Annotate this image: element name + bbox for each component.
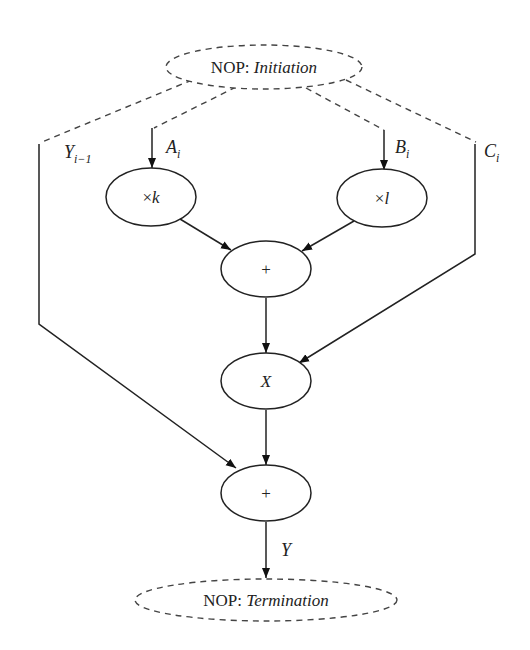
edge-label-c: Ci [484, 141, 499, 165]
node-add-1: + [221, 241, 311, 297]
edge-init-b-dashed [306, 88, 384, 130]
edge-label-a: Ai [165, 137, 180, 161]
node-initiation-prefix: NOP: [211, 58, 254, 77]
node-termination-label: Termination [246, 591, 329, 610]
edge-init-a-dashed [154, 87, 236, 128]
dataflow-diagram: NOP: Initiation ×k ×l + X + NOP: Termina… [0, 0, 530, 650]
edge-mull-to-add1 [302, 221, 354, 251]
node-multiply-l: ×l [337, 169, 427, 227]
node-add-2-label: + [261, 484, 271, 503]
node-multiply-k-label: k [152, 188, 160, 207]
node-multiply-l-label: l [384, 189, 389, 208]
edge-label-y-prev: Yi−1 [64, 142, 91, 166]
node-x-label: X [260, 372, 272, 391]
node-initiation-label: Initiation [253, 58, 317, 77]
node-termination: NOP: Termination [135, 579, 397, 621]
edge-mulk-to-add1 [180, 219, 231, 250]
node-x: X [221, 353, 311, 409]
edge-label-b: Bi [395, 137, 409, 161]
node-add-2: + [221, 465, 311, 521]
svg-text:NOP: Initiation: NOP: Initiation [211, 58, 317, 77]
node-initiation: NOP: Initiation [166, 45, 362, 89]
node-multiply-k: ×k [106, 168, 196, 226]
node-termination-prefix: NOP: [203, 591, 246, 610]
edge-init-yprev-dashed [42, 80, 192, 142]
node-multiply-l-prefix: × [375, 189, 385, 208]
node-add-1-label: + [261, 260, 271, 279]
svg-text:×l: ×l [375, 189, 390, 208]
node-multiply-k-prefix: × [142, 188, 152, 207]
dashed-edges [42, 80, 476, 142]
svg-text:NOP: Termination: NOP: Termination [203, 591, 329, 610]
edge-label-y: Y [281, 540, 293, 560]
edge-init-c-dashed [346, 80, 476, 142]
svg-text:×k: ×k [142, 188, 160, 207]
